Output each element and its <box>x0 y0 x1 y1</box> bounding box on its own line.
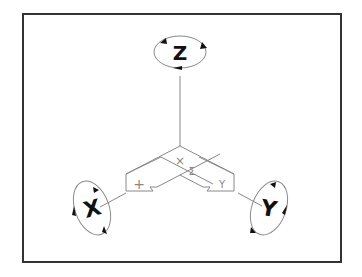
y-rotation-handle[interactable]: Y <box>243 176 294 240</box>
x-axis-line <box>100 193 126 207</box>
y-axis-line <box>238 193 262 206</box>
z-arrow-icon <box>173 66 182 70</box>
x-rotation-handle[interactable]: X <box>66 176 117 240</box>
plane-label-mid: Σ <box>189 165 196 178</box>
z-axis-label: Z <box>173 41 188 65</box>
x-axis-label: X <box>81 194 104 223</box>
plane-label-left: + <box>133 176 145 192</box>
plane-label-right: Y <box>218 179 226 190</box>
axis-gizmo: Z × Σ + Y X Y <box>0 0 362 277</box>
z-rotation-handle[interactable]: Z <box>154 36 207 70</box>
plane-label-top: × <box>175 154 185 168</box>
y-axis-label: Y <box>258 195 280 223</box>
y-arrow-icon <box>270 182 276 188</box>
x-arrow-icon <box>102 226 107 234</box>
x-arrow-icon <box>93 187 99 193</box>
